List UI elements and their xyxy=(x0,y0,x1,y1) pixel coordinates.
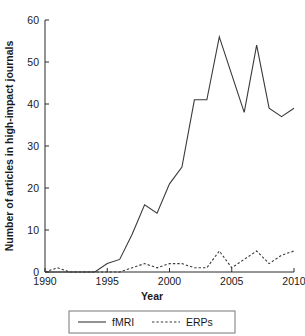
axes-group xyxy=(45,20,294,272)
x-tick-label: 2000 xyxy=(158,275,182,287)
x-axis-title: Year xyxy=(141,290,163,302)
x-axis-tick-labels: 19901995200020052010 xyxy=(33,275,305,287)
line-chart: 0102030405060 19901995200020052010 Year … xyxy=(0,0,305,336)
y-axis-ticks xyxy=(45,20,49,272)
legend-label-erps: ERPs xyxy=(186,316,213,328)
series-line-fmri xyxy=(45,37,294,272)
y-tick-label: 60 xyxy=(27,14,39,26)
legend: fMRI ERPs xyxy=(69,311,235,333)
y-axis-title: Number of articles in high-impact journa… xyxy=(3,41,15,252)
x-tick-label: 1995 xyxy=(96,275,120,287)
y-tick-label: 10 xyxy=(27,224,39,236)
legend-label-fmri: fMRI xyxy=(112,316,134,328)
x-axis-ticks xyxy=(45,268,294,272)
y-axis-tick-labels: 0102030405060 xyxy=(27,14,39,278)
chart-container: 0102030405060 19901995200020052010 Year … xyxy=(0,0,305,336)
y-tick-label: 30 xyxy=(27,140,39,152)
x-tick-label: 2010 xyxy=(282,275,305,287)
series-group xyxy=(45,37,294,272)
x-tick-label: 1990 xyxy=(33,275,57,287)
x-tick-label: 2005 xyxy=(220,275,244,287)
y-tick-label: 40 xyxy=(27,98,39,110)
y-tick-label: 50 xyxy=(27,56,39,68)
y-tick-label: 20 xyxy=(27,182,39,194)
